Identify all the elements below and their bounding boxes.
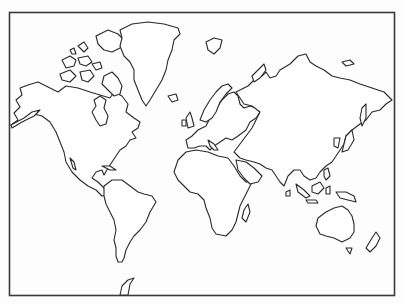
landmass-north-america <box>11 82 140 196</box>
landmass-svalbard <box>206 38 222 54</box>
landmass-ireland <box>182 120 186 126</box>
landmass-sumatra <box>296 184 310 198</box>
landmass-arctic-island-4 <box>80 70 94 82</box>
landmass-australia <box>316 206 354 242</box>
landmass-madagascar <box>242 204 250 222</box>
landmass-south-america <box>104 180 156 262</box>
landmass-arctic-island-7 <box>92 62 102 70</box>
landmass-antarctic-peninsula <box>120 278 134 295</box>
landmass-greenland <box>120 22 180 106</box>
landmass-iceland <box>168 94 178 102</box>
world-map <box>0 0 404 304</box>
landmass-arctic-island-2 <box>78 56 92 66</box>
landmass-tasmania <box>346 248 352 254</box>
landmass-sri-lanka <box>286 190 290 196</box>
world-map-svg <box>0 0 404 304</box>
landmass-arctic-island-3 <box>60 70 76 82</box>
landmass-java <box>306 200 318 203</box>
landmass-severnaya-zemlya <box>342 60 354 66</box>
landmass-arctic-island-1 <box>62 56 76 68</box>
landmass-ellesmere-island <box>96 30 124 52</box>
landmass-new-guinea <box>336 192 356 202</box>
landmass-great-britain <box>186 112 194 128</box>
landmass-arctic-island-6 <box>70 48 76 54</box>
landmass-borneo <box>312 182 324 194</box>
landmass-philippines <box>324 168 330 180</box>
landmass-arctic-island-5 <box>78 42 88 52</box>
landmass-new-zealand <box>366 232 380 252</box>
landmass-baffin-island <box>102 72 122 96</box>
landmass-sulawesi <box>326 186 330 194</box>
